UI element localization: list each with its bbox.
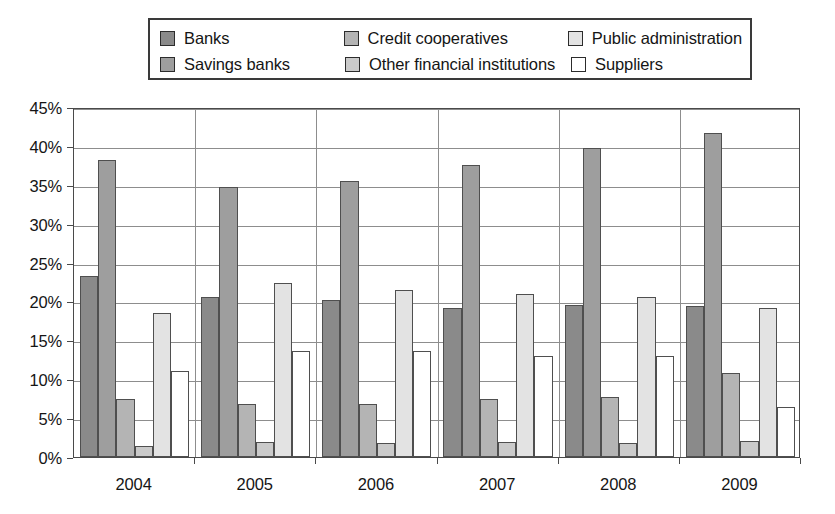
legend-swatch-public-administration: [568, 31, 583, 46]
x-tick-mark: [679, 458, 680, 464]
y-tick-label: 10%: [0, 372, 62, 389]
legend-row-2: Savings banks Other financial institutio…: [160, 51, 742, 77]
bar: [377, 443, 395, 457]
legend-row-1: Banks Credit cooperatives Public adminis…: [160, 25, 742, 51]
x-tick-label: 2004: [73, 476, 194, 493]
bar: [98, 160, 116, 457]
bar-chart: Banks Credit cooperatives Public adminis…: [0, 0, 835, 514]
bar: [322, 300, 340, 457]
bar: [395, 290, 413, 457]
x-tick-label: 2006: [315, 476, 436, 493]
legend-label-other-financial-institutions: Other financial institutions: [369, 56, 555, 73]
legend-label-credit-cooperatives: Credit cooperatives: [368, 30, 508, 47]
bar: [171, 371, 189, 457]
x-tick-label: 2007: [437, 476, 558, 493]
bar-group-2009: [680, 109, 807, 457]
bar-group-2006: [316, 109, 443, 457]
legend-item-banks[interactable]: Banks: [160, 30, 344, 47]
y-tick-label: 5%: [0, 411, 62, 428]
bar: [704, 133, 722, 457]
bar: [601, 397, 619, 457]
bar: [201, 297, 219, 457]
x-tick-mark: [558, 458, 559, 464]
legend-item-suppliers[interactable]: Suppliers: [571, 56, 663, 73]
x-tick-mark: [315, 458, 316, 464]
y-tick-label: 35%: [0, 178, 62, 195]
bar: [498, 442, 516, 457]
bar: [135, 446, 153, 457]
bar: [80, 276, 98, 457]
legend-swatch-other-financial-institutions: [345, 57, 360, 72]
x-tick-label: 2008: [558, 476, 679, 493]
y-tick-mark: [67, 458, 73, 459]
bar: [219, 187, 237, 457]
bar: [292, 351, 310, 457]
y-tick-label: 15%: [0, 333, 62, 350]
y-tick-label: 45%: [0, 100, 62, 117]
legend-label-savings-banks: Savings banks: [184, 56, 290, 73]
bar: [534, 356, 552, 457]
bar-group-2008: [559, 109, 686, 457]
chart-legend: Banks Credit cooperatives Public adminis…: [148, 18, 752, 80]
bar: [619, 443, 637, 457]
legend-item-other-financial-institutions[interactable]: Other financial institutions: [345, 56, 571, 73]
bar: [340, 181, 358, 457]
legend-label-public-administration: Public administration: [592, 30, 742, 47]
y-tick-label: 25%: [0, 255, 62, 272]
bar: [565, 305, 583, 457]
legend-swatch-savings-banks: [160, 57, 175, 72]
bar: [516, 294, 534, 457]
bar: [116, 399, 134, 457]
legend-swatch-credit-cooperatives: [344, 31, 359, 46]
bar: [656, 356, 674, 457]
bar: [686, 306, 704, 457]
bar: [274, 283, 292, 457]
legend-label-suppliers: Suppliers: [595, 56, 663, 73]
bar: [583, 148, 601, 457]
bar: [740, 441, 758, 457]
legend-label-banks: Banks: [184, 30, 229, 47]
bars-layer: [74, 109, 799, 457]
y-tick-label: 40%: [0, 139, 62, 156]
x-tick-mark: [437, 458, 438, 464]
x-tick-mark: [800, 458, 801, 464]
legend-item-public-administration[interactable]: Public administration: [568, 30, 742, 47]
bar: [153, 313, 171, 457]
legend-item-savings-banks[interactable]: Savings banks: [160, 56, 345, 73]
plot-area: [73, 108, 800, 458]
x-tick-label: 2009: [679, 476, 800, 493]
y-tick-label: 20%: [0, 294, 62, 311]
bar-group-2005: [195, 109, 322, 457]
bar-group-2007: [438, 109, 565, 457]
bar: [256, 442, 274, 457]
bar: [722, 373, 740, 457]
bar: [759, 308, 777, 457]
x-tick-label: 2005: [194, 476, 315, 493]
bar: [462, 165, 480, 457]
bar: [480, 399, 498, 457]
y-tick-label: 0%: [0, 450, 62, 467]
bar: [238, 404, 256, 457]
bar: [443, 308, 461, 457]
bar-group-2004: [74, 109, 201, 457]
x-tick-mark: [194, 458, 195, 464]
bar: [359, 404, 377, 457]
legend-swatch-banks: [160, 31, 175, 46]
bar: [637, 297, 655, 457]
legend-item-credit-cooperatives[interactable]: Credit cooperatives: [344, 30, 568, 47]
bar: [777, 407, 795, 457]
bar: [413, 351, 431, 457]
y-tick-label: 30%: [0, 216, 62, 233]
legend-swatch-suppliers: [571, 57, 586, 72]
